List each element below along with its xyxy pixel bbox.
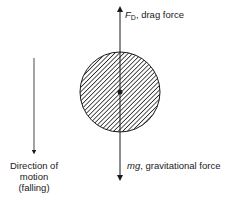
motion-label: Direction of motion (falling): [0, 160, 69, 193]
gravity-force-text: , gravitational force: [140, 160, 220, 171]
motion-label-line3: (falling): [0, 182, 69, 193]
gravity-force-symbol: mg: [127, 160, 140, 171]
motion-label-line1: Direction of: [0, 160, 69, 171]
gravity-force-label: mg, gravitational force: [127, 160, 220, 171]
drag-force-text: , drag force: [136, 9, 184, 20]
drag-force-label: FD, drag force: [125, 9, 184, 23]
center-of-mass-dot: [118, 90, 123, 95]
motion-label-line2: motion: [0, 171, 69, 182]
